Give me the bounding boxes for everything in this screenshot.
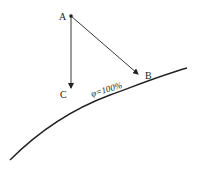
diagram-canvas: A B C φ=100% bbox=[0, 0, 199, 173]
saturation-curve bbox=[10, 68, 187, 160]
arrow-a-to-b bbox=[71, 16, 138, 74]
label-a: A bbox=[59, 11, 67, 22]
label-c: C bbox=[60, 89, 67, 100]
label-b: B bbox=[145, 70, 152, 81]
point-a bbox=[69, 14, 73, 18]
